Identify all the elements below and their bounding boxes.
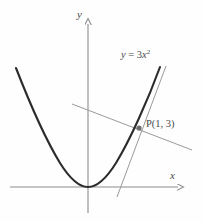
point-p-marker [136, 125, 141, 130]
equation-equals: = [126, 49, 137, 60]
math-graph-figure: y x y = 3x2 P(1, 3) [0, 0, 204, 222]
y-axis-label: y [77, 9, 82, 20]
graph-canvas [0, 0, 204, 222]
tangent-line [117, 66, 166, 197]
point-p-label: P(1, 3) [146, 119, 175, 130]
x-axis-label: x [170, 170, 175, 181]
equation-exponent: 2 [147, 48, 151, 56]
curve-equation-label: y = 3x2 [121, 50, 150, 61]
